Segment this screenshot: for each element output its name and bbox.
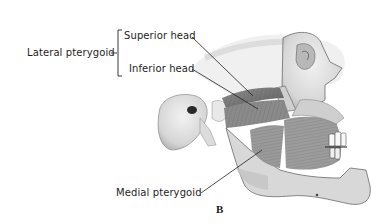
label-superior-head: Superior head xyxy=(124,30,196,42)
panel-letter: B xyxy=(216,203,223,215)
label-medial-pterygoid: Medial pterygoid xyxy=(116,187,202,199)
anatomy-figure: Lateral pterygoid Superior head Inferior… xyxy=(0,0,388,224)
temporal-bone-condyle xyxy=(158,95,228,151)
label-inferior-head: Inferior head xyxy=(129,63,195,75)
label-lateral-pterygoid: Lateral pterygoid xyxy=(27,47,115,59)
